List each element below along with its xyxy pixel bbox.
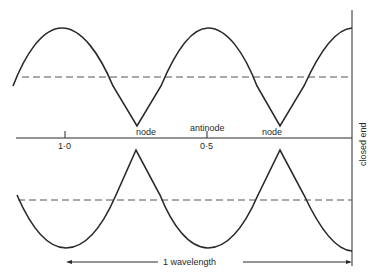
arrowhead-left-icon: [66, 260, 72, 264]
tick-label-0-5: 0·5: [200, 141, 213, 151]
wavelength-label: 1 wavelength: [163, 257, 216, 267]
node-label-left: node: [136, 127, 156, 137]
wave-drawing: [0, 0, 379, 280]
closed-end-label: closed end: [358, 122, 368, 166]
node-label-right: node: [262, 127, 282, 137]
antinode-label: antinode: [190, 123, 225, 133]
arrowhead-right-icon: [346, 260, 352, 264]
standing-wave-diagram: node antinode node 1·0 0·5 closed end 1 …: [0, 0, 379, 280]
tick-label-1-0: 1·0: [58, 141, 71, 151]
